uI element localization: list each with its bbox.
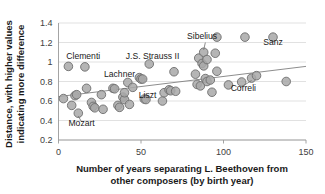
data-point [67, 101, 76, 110]
point-annotation: Liszt [139, 90, 157, 100]
data-point [72, 90, 81, 99]
point-annotation: J.S. Strauss II [126, 51, 180, 61]
x-tick-labels: 050100150 [56, 140, 314, 157]
data-point [208, 88, 217, 97]
x-tick-label: 50 [136, 147, 146, 157]
y-tick-labels: 0.20.40.60.811.21.4 [40, 18, 53, 145]
y-tick-label: 0.8 [40, 77, 53, 87]
y-tick-label: 1.4 [40, 18, 53, 28]
x-axis-title-line1: Number of years separating L. Beethoven … [76, 163, 288, 174]
data-point [145, 60, 154, 69]
data-point [206, 76, 215, 85]
data-point [82, 84, 91, 93]
data-point [97, 90, 106, 99]
x-tick-label: 150 [298, 147, 313, 157]
data-point [211, 49, 220, 58]
data-point [213, 67, 222, 76]
y-tick-label: 1 [47, 57, 52, 67]
point-annotation: Lachner [104, 69, 135, 79]
data-point [81, 63, 90, 72]
data-point [191, 70, 200, 79]
data-point [170, 67, 179, 76]
point-annotation: Clementi [66, 51, 100, 61]
x-tick-label: 0 [56, 147, 61, 157]
data-points [59, 33, 290, 118]
y-tick-label: 0.6 [40, 96, 53, 106]
point-annotation: Correli [231, 83, 256, 93]
point-annotation: Sibelius [187, 31, 217, 41]
point-annotation: Mozart [68, 118, 95, 128]
x-axis-title-line2: other composers (by birth year) [110, 175, 253, 186]
data-point [128, 83, 137, 92]
chart-canvas: 0.20.40.60.811.21.4 050100150 ClementiJ.… [0, 0, 325, 194]
y-tick-label: 0.4 [40, 116, 53, 126]
y-axis-title-line2: indicating more difference [15, 25, 26, 144]
data-point [99, 105, 108, 114]
data-point [91, 104, 100, 113]
data-point [203, 55, 212, 64]
data-point [241, 33, 250, 42]
data-point [110, 85, 119, 94]
data-point [64, 62, 73, 71]
data-point [115, 103, 124, 112]
data-point [120, 88, 129, 97]
data-point [252, 71, 261, 80]
data-point [158, 97, 167, 106]
data-point [138, 75, 147, 84]
data-point [59, 94, 68, 103]
y-tick-label: 1.2 [40, 38, 53, 48]
y-tick-label: 0.2 [40, 135, 53, 145]
data-point [125, 100, 134, 109]
y-axis-title-line1: Distance, with higher values [3, 20, 14, 148]
data-point [282, 77, 291, 86]
data-point [171, 87, 180, 96]
point-annotation: Sanz [263, 37, 283, 47]
x-tick-label: 100 [216, 147, 231, 157]
scatter-chart-figure: 0.20.40.60.811.21.4 050100150 ClementiJ.… [0, 0, 325, 194]
